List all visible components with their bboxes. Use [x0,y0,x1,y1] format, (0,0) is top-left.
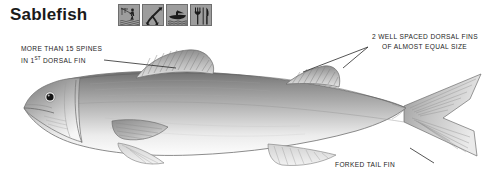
annotation-dorsal-line2: OF ALMOST EQUAL SIZE [372,42,478,52]
annotation-spines: MORE THAN 15 SPINES IN 1ST DORSAL FIN [21,44,102,65]
shore-angler-icon[interactable] [118,4,140,26]
fork-knife-icon[interactable] [190,4,212,26]
annotation-forked-tail: FORKED TAIL FIN [335,160,395,170]
forked-caudal-fin [404,74,481,156]
fishing-boat-icon[interactable] [166,4,188,26]
fish-identification-card: Sablefish [0,0,485,188]
activity-icon-strip [118,4,212,26]
anal-fin [268,144,336,166]
annotation-dorsal-line1: 2 WELL SPACED DORSAL FINS [372,32,478,42]
eye [45,92,55,102]
hook-icon[interactable] [142,4,164,26]
second-dorsal-fin [286,66,340,87]
page-title: Sablefish [10,5,87,25]
annotation-spines-line1: MORE THAN 15 SPINES [21,44,102,54]
body [24,71,406,155]
annotation-spines-line2-prefix: IN 1 [21,57,35,64]
annotation-dorsal-fins: 2 WELL SPACED DORSAL FINS OF ALMOST EQUA… [372,32,478,51]
annotation-tail-line1: FORKED TAIL FIN [335,160,395,170]
sablefish-illustration [0,0,485,188]
annotation-spines-line2: IN 1ST DORSAL FIN [21,54,102,66]
annotation-spines-line2-suffix: DORSAL FIN [41,57,86,64]
